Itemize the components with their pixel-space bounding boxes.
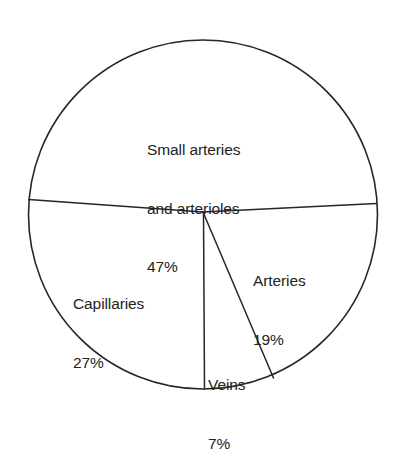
- slice-value-arteries: 19%: [253, 330, 306, 350]
- slice-label-capillaries: Capillaries 27%: [73, 255, 144, 411]
- slice-label-name-line1: Small arteries: [147, 140, 240, 160]
- slice-label-name-veins: Veins: [208, 375, 245, 395]
- slice-value-small-arteries-and-arterioles: 47%: [147, 257, 240, 277]
- slice-label-small-arteries-and-arterioles: Small arteries and arterioles 47%: [147, 101, 240, 316]
- slice-value-veins: 7%: [208, 434, 245, 453]
- slice-label-name-capillaries: Capillaries: [73, 294, 144, 314]
- slice-label-name-arteries: Arteries: [253, 271, 306, 291]
- slice-label-arteries: Arteries 19%: [253, 232, 306, 388]
- slice-label-veins: Veins 7%: [208, 336, 245, 453]
- slice-value-capillaries: 27%: [73, 353, 144, 373]
- slice-label-name-line2: and arterioles: [147, 199, 240, 219]
